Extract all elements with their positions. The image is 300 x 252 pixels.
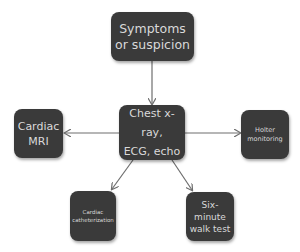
node-label: Holter monitoring xyxy=(247,126,282,144)
flowchart-canvas: Symptoms or suspicion Chest x-ray, ECG, … xyxy=(0,0,300,252)
arrow-center-to-walk xyxy=(172,160,192,190)
node-chest-xray-ecg-echo: Chest x-ray, ECG, echo xyxy=(119,105,185,160)
node-label: Cardiac catheterization xyxy=(72,208,114,224)
arrow-center-to-cath xyxy=(112,160,133,189)
node-symptoms-or-suspicion: Symptoms or suspicion xyxy=(111,12,194,61)
node-holter-monitoring: Holter monitoring xyxy=(241,110,289,159)
node-label: Chest x-ray, ECG, echo xyxy=(121,104,183,161)
node-cardiac-catheterization: Cardiac catheterization xyxy=(70,191,116,241)
node-label: Symptoms or suspicion xyxy=(115,21,190,53)
node-cardiac-mri: Cardiac MRI xyxy=(14,109,63,158)
node-label: Cardiac MRI xyxy=(18,119,60,149)
node-six-minute-walk-test: Six- minute walk test xyxy=(186,192,234,241)
node-label: Six- minute walk test xyxy=(190,199,231,235)
